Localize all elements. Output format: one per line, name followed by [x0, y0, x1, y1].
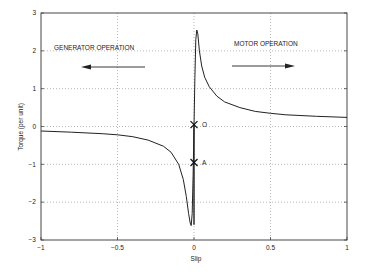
- left-arrow-icon: [81, 65, 145, 70]
- y-tick-label: 2: [32, 47, 36, 54]
- x-axis-label: Slip: [191, 255, 202, 263]
- x-tick-label: −1: [37, 244, 45, 251]
- motor-operation-label: MOTOR OPERATION: [234, 40, 298, 47]
- x-tick-label: −0.5: [111, 244, 124, 251]
- y-tick-label: −2: [29, 198, 37, 205]
- y-tick-label: 0: [32, 123, 36, 130]
- y-axis-label: Torque (per unit): [17, 103, 25, 151]
- x-tick-label: 0.5: [266, 244, 275, 251]
- y-tick-label: 3: [32, 9, 36, 16]
- torque-slip-chart: −1−0.500.513210−1−2−3 OA GENERATOR OPERA…: [0, 0, 375, 272]
- y-tick-label: −3: [29, 236, 37, 243]
- generator-operation-label: GENERATOR OPERATION: [54, 44, 134, 51]
- marker-label: O: [202, 121, 207, 128]
- x-tick-label: 1: [345, 244, 349, 251]
- right-arrow-icon: [232, 64, 295, 69]
- x-tick-label: 0: [192, 244, 196, 251]
- y-tick-label: 1: [32, 85, 36, 92]
- y-tick-label: −1: [29, 161, 37, 168]
- marker-label: A: [202, 159, 207, 166]
